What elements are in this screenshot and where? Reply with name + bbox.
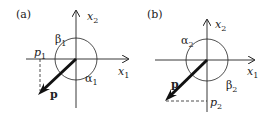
panel-a: (a) x2 x1 β1 α1 p1 p [16, 8, 129, 108]
x1-label-a: x1 [118, 65, 129, 80]
panel-b: (b) x2 x1 α2 β2 p2 p [147, 8, 258, 112]
panel-b-label: (b) [147, 8, 163, 21]
panel-a-label: (a) [16, 8, 31, 21]
beta2-label: β2 [226, 79, 237, 94]
alpha2-label: α2 [181, 34, 194, 49]
p2-label: p2 [210, 96, 222, 111]
x2-label-b: x2 [215, 18, 226, 33]
p1-label: p1 [34, 46, 46, 61]
x1-label-b: x1 [247, 65, 258, 80]
beta1-label: β1 [55, 33, 66, 48]
direction-cosines-diagram: (a) x2 x1 β1 α1 p1 p (b) x2 x1 α2 [0, 0, 271, 116]
vector-p-a [44, 59, 76, 89]
x2-label-a: x2 [87, 10, 98, 25]
vector-p-label-a: p [50, 88, 58, 101]
vector-p-label-b: p [171, 78, 179, 91]
alpha1-label: α1 [85, 72, 98, 87]
